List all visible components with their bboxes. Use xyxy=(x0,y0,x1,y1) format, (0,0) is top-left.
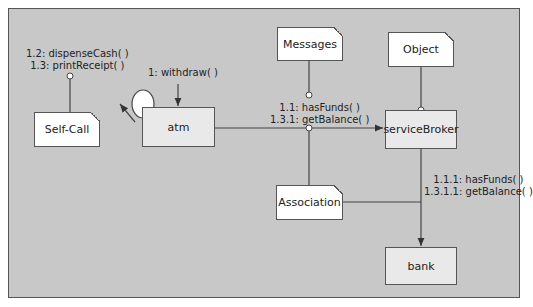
message-dispense-cash: 1.2: dispenseCash( ) xyxy=(26,48,129,60)
note-object-label: Object xyxy=(403,43,439,56)
message-get-balance: 1.3.1: getBalance( ) xyxy=(270,114,369,126)
note-self-call-label: Self-Call xyxy=(45,123,90,136)
object-atm[interactable]: atm xyxy=(142,107,215,147)
note-self-call: Self-Call xyxy=(34,112,100,147)
object-atm-label: atm xyxy=(168,121,190,134)
message-print-receipt: 1.3: printReceipt( ) xyxy=(26,60,129,72)
note-association: Association xyxy=(276,185,343,220)
note-association-label: Association xyxy=(278,196,341,209)
object-bank[interactable]: bank xyxy=(385,247,457,285)
message-withdraw: 1: withdraw( ) xyxy=(148,67,218,79)
object-bank-label: bank xyxy=(407,260,434,273)
message-bank-group: 1.1.1: hasFunds( ) 1.3.1.1: getBalance( … xyxy=(424,174,533,198)
message-bank-get-balance: 1.3.1.1: getBalance( ) xyxy=(424,186,533,198)
note-object: Object xyxy=(388,32,454,67)
message-self-call-group: 1.2: dispenseCash( ) 1.3: printReceipt( … xyxy=(26,48,129,72)
note-messages: Messages xyxy=(277,27,343,61)
message-bank-has-funds: 1.1.1: hasFunds( ) xyxy=(424,174,533,186)
object-service-broker-label: serviceBroker xyxy=(383,123,458,136)
message-broker-group: 1.1: hasFunds( ) 1.3.1: getBalance( ) xyxy=(270,102,369,126)
message-has-funds: 1.1: hasFunds( ) xyxy=(270,102,369,114)
note-messages-label: Messages xyxy=(283,38,337,51)
object-service-broker[interactable]: serviceBroker xyxy=(385,110,457,149)
